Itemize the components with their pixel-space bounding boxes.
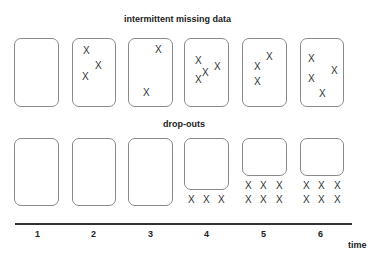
missing-marker: X xyxy=(266,52,273,62)
dropout-marker: X xyxy=(334,181,341,191)
box-dropout-3 xyxy=(128,138,173,206)
box-intermittent-1 xyxy=(14,38,59,107)
missing-marker: X xyxy=(82,72,89,82)
missing-marker: X xyxy=(308,74,315,84)
missing-marker: X xyxy=(195,56,202,66)
box-dropout-6 xyxy=(300,138,344,176)
box-intermittent-5 xyxy=(242,38,287,107)
title-dropouts: drop-outs xyxy=(163,119,205,129)
missing-marker: X xyxy=(254,62,261,72)
dropout-marker: X xyxy=(318,181,325,191)
missing-marker: X xyxy=(308,54,315,64)
missing-marker: X xyxy=(195,75,202,85)
missing-marker: X xyxy=(83,46,90,56)
dropout-marker: X xyxy=(245,181,252,191)
dropout-marker: X xyxy=(203,195,210,205)
time-tick-4: 4 xyxy=(204,229,209,239)
missing-marker: X xyxy=(95,61,102,71)
title-intermittent: intermittent missing data xyxy=(124,14,231,24)
missing-marker: X xyxy=(319,89,326,99)
dropout-marker: X xyxy=(245,195,252,205)
dropout-marker: X xyxy=(334,195,341,205)
dropout-marker: X xyxy=(260,181,267,191)
dropout-marker: X xyxy=(303,195,310,205)
dropout-marker: X xyxy=(318,195,325,205)
dropout-marker: X xyxy=(188,195,195,205)
missing-marker: X xyxy=(155,45,162,55)
time-tick-2: 2 xyxy=(91,229,96,239)
box-dropout-1 xyxy=(14,138,59,206)
dropout-marker: X xyxy=(276,181,283,191)
time-tick-5: 5 xyxy=(261,229,266,239)
dropout-marker: X xyxy=(303,181,310,191)
time-tick-1: 1 xyxy=(35,229,40,239)
dropout-marker: X xyxy=(260,195,267,205)
missing-marker: X xyxy=(202,68,209,78)
box-dropout-2 xyxy=(72,138,116,206)
missing-marker: X xyxy=(143,88,150,98)
box-intermittent-2 xyxy=(72,38,116,107)
missing-marker: X xyxy=(331,66,338,76)
box-dropout-5 xyxy=(242,138,287,176)
dropout-marker: X xyxy=(218,195,225,205)
time-tick-6: 6 xyxy=(318,229,323,239)
missing-marker: X xyxy=(254,77,261,87)
time-tick-3: 3 xyxy=(148,229,153,239)
time-axis-label: time xyxy=(348,240,367,250)
dropout-marker: X xyxy=(276,195,283,205)
time-axis-line xyxy=(15,223,352,225)
missing-marker: X xyxy=(214,62,221,72)
box-intermittent-3 xyxy=(128,38,173,107)
box-dropout-4 xyxy=(184,138,229,190)
